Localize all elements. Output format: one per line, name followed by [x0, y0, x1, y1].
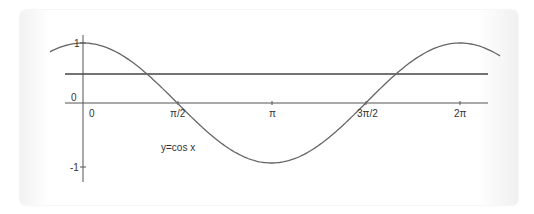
y-tick-0: 0	[71, 92, 77, 103]
cosine-chart: 1 0 -1 0 π/2 π 3π/2 2π y=cos x	[0, 0, 534, 214]
x-tick-0: 0	[89, 108, 95, 119]
y-tick-1: 1	[74, 38, 80, 49]
x-tick-2pi: 2π	[454, 108, 467, 119]
y-tick-neg1: -1	[70, 162, 79, 173]
x-tick-pi2: π/2	[170, 108, 186, 119]
curve-label: y=cos x	[161, 142, 195, 153]
x-tick-pi: π	[269, 108, 276, 119]
x-tick-3pi2: 3π/2	[357, 108, 378, 119]
